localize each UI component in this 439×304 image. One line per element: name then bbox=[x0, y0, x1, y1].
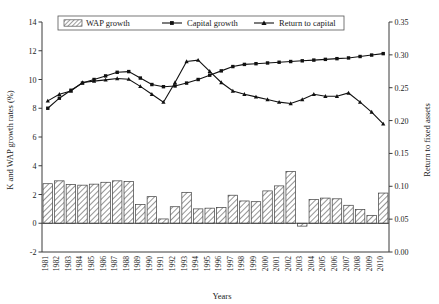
x-axis-tick-label: 1981 bbox=[41, 256, 50, 271]
wap-growth-bar bbox=[367, 215, 376, 223]
data-point-marker bbox=[115, 71, 118, 74]
data-point-marker bbox=[46, 107, 49, 110]
x-axis-tick-label: 1986 bbox=[99, 256, 108, 271]
wap-growth-bar bbox=[55, 181, 64, 223]
x-axis-tick-label: 2008 bbox=[353, 256, 362, 271]
wap-growth-bar bbox=[355, 210, 364, 224]
data-point-marker bbox=[324, 58, 327, 61]
x-axis-tick-label: 1994 bbox=[191, 256, 200, 271]
wap-growth-bar bbox=[251, 202, 260, 224]
left-axis-title: K and WAP growth rates (%) bbox=[5, 90, 15, 190]
x-axis-tick-label: 1987 bbox=[110, 256, 119, 271]
x-axis-tick-label: 2010 bbox=[376, 256, 385, 271]
wap-growth-bar bbox=[205, 208, 214, 223]
right-axis-tick-label: 0.30 bbox=[395, 51, 409, 60]
wap-growth-bar bbox=[321, 198, 330, 223]
data-point-marker bbox=[370, 53, 373, 56]
data-point-marker bbox=[185, 81, 188, 84]
wap-growth-bar bbox=[378, 193, 387, 223]
x-axis-tick-label: 1993 bbox=[180, 256, 189, 271]
right-axis-tick-label: 0.35 bbox=[395, 18, 409, 27]
x-axis-tick-label: 1999 bbox=[249, 256, 258, 271]
x-axis-tick-label: 1985 bbox=[87, 256, 96, 271]
legend-label-wap-growth: WAP growth bbox=[86, 18, 131, 28]
x-axis-tick-label: 2007 bbox=[342, 256, 351, 271]
wap-growth-bar bbox=[263, 191, 272, 223]
wap-growth-bar bbox=[136, 205, 145, 224]
wap-growth-bar bbox=[274, 186, 283, 223]
wap-growth-bar bbox=[344, 205, 353, 223]
legend-marker-capital-growth bbox=[170, 21, 174, 25]
wap-growth-bar bbox=[66, 184, 75, 223]
x-axis-tick-label: 1995 bbox=[203, 256, 212, 271]
x-axis-tick-label: 1997 bbox=[226, 256, 235, 271]
right-axis-tick-label: 0.05 bbox=[395, 215, 409, 224]
wap-growth-bar bbox=[193, 209, 202, 223]
wap-growth-bar bbox=[182, 192, 191, 223]
data-point-marker bbox=[289, 60, 292, 63]
data-point-marker bbox=[243, 63, 246, 66]
data-point-marker bbox=[150, 83, 153, 86]
wap-growth-bar bbox=[147, 197, 156, 224]
right-axis-tick-label: 0.15 bbox=[395, 149, 409, 158]
right-axis-title: Return to fixed assets bbox=[422, 103, 432, 176]
wap-growth-bar bbox=[159, 219, 168, 223]
x-axis-tick-label: 2003 bbox=[295, 256, 304, 271]
x-axis-tick-label: 1989 bbox=[133, 256, 142, 271]
legend-label-return-to-capital: Return to capital bbox=[279, 18, 336, 28]
chart-legend: WAP growthCapital growthReturn to capita… bbox=[58, 16, 344, 30]
x-axis-tick-label: 2001 bbox=[272, 256, 281, 271]
wap-growth-bar bbox=[240, 201, 249, 223]
left-axis-tick-label: 12 bbox=[29, 47, 37, 56]
wap-growth-bar bbox=[228, 195, 237, 223]
data-point-marker bbox=[335, 57, 338, 60]
data-point-marker bbox=[254, 62, 257, 65]
wap-growth-bar bbox=[217, 207, 226, 223]
x-axis-tick-label: 2000 bbox=[261, 256, 270, 271]
wap-growth-bar bbox=[170, 207, 179, 224]
x-axis-tick-label: 1988 bbox=[122, 256, 131, 271]
data-point-marker bbox=[127, 70, 130, 73]
wap-growth-bar bbox=[101, 182, 110, 223]
data-point-marker bbox=[347, 56, 350, 59]
wap-growth-bar bbox=[332, 199, 341, 223]
wap-growth-bar bbox=[89, 184, 98, 223]
left-axis-tick-label: 0 bbox=[33, 219, 37, 228]
x-axis-tick-label: 2002 bbox=[284, 256, 293, 271]
growth-and-return-chart: -2024681012140.000.050.100.150.200.250.3… bbox=[0, 0, 439, 304]
left-axis-tick-label: 4 bbox=[33, 162, 37, 171]
data-point-marker bbox=[162, 85, 165, 88]
x-axis-tick-label: 2005 bbox=[318, 256, 327, 271]
left-axis-tick-label: 10 bbox=[29, 76, 37, 85]
wap-growth-bar bbox=[286, 172, 295, 224]
x-axis-tick-label: 1992 bbox=[168, 256, 177, 271]
wap-growth-bar bbox=[112, 181, 121, 223]
legend-swatch-wap-growth bbox=[64, 20, 82, 26]
chart-container: -2024681012140.000.050.100.150.200.250.3… bbox=[0, 0, 439, 304]
data-point-marker bbox=[312, 58, 315, 61]
data-point-marker bbox=[220, 69, 223, 72]
x-axis-tick-label: 1996 bbox=[214, 256, 223, 271]
legend-label-capital-growth: Capital growth bbox=[187, 18, 239, 28]
data-point-marker bbox=[301, 59, 304, 62]
data-point-marker bbox=[139, 76, 142, 79]
x-axis-tick-label: 2006 bbox=[330, 256, 339, 271]
data-point-marker bbox=[382, 52, 385, 55]
data-point-marker bbox=[231, 65, 234, 68]
data-point-marker bbox=[358, 55, 361, 58]
wap-growth-bar bbox=[309, 200, 318, 224]
wap-growth-bar bbox=[43, 184, 52, 224]
left-axis-tick-label: 14 bbox=[29, 18, 37, 27]
data-point-marker bbox=[266, 61, 269, 64]
right-axis-tick-label: 0.20 bbox=[395, 117, 409, 126]
x-axis-tick-label: 2004 bbox=[307, 256, 316, 271]
left-axis-tick-label: 6 bbox=[33, 133, 37, 142]
x-axis-tick-label: 1984 bbox=[75, 256, 84, 271]
data-point-marker bbox=[196, 78, 199, 81]
wap-growth-bar bbox=[78, 185, 87, 223]
wap-growth-bar bbox=[124, 182, 133, 224]
x-axis-title: Years bbox=[213, 291, 232, 301]
right-axis-tick-label: 0.10 bbox=[395, 182, 409, 191]
left-axis-tick-label: 8 bbox=[33, 104, 37, 113]
data-point-marker bbox=[58, 96, 61, 99]
